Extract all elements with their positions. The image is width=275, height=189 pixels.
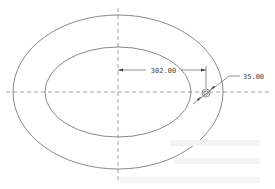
drawing-canvas: 302.00 35.00: [0, 0, 275, 189]
distance-label: 302.00: [151, 67, 176, 75]
diameter-dimension: 35.00: [193, 73, 264, 105]
distance-dimension: 302.00: [118, 66, 206, 88]
diameter-label: 35.00: [243, 73, 264, 81]
watermark: [120, 140, 260, 183]
